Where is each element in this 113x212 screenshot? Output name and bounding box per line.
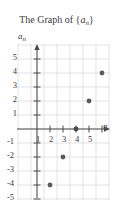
y-tick-label-neg1: -1: [0, 136, 14, 146]
y-tick-label-neg2: -2: [0, 150, 14, 160]
data-point: [74, 127, 79, 132]
y-tick-label-neg3: -3: [0, 164, 14, 174]
y-axis-label: an: [18, 31, 26, 43]
sequence-graph-figure: The Graph of {an} an n 5 4 3 2 1 -1 -2 -…: [0, 0, 113, 212]
chart-title-prefix: The Graph of {: [19, 14, 80, 25]
y-tick-label-2: 2: [3, 94, 17, 104]
plot-area: [17, 44, 110, 200]
data-point: [100, 71, 105, 76]
y-tick-label-neg4: -4: [0, 178, 14, 188]
data-points: [17, 44, 110, 200]
chart-title-suffix: }: [89, 14, 94, 25]
y-tick-label-4: 4: [3, 66, 17, 76]
data-point: [87, 99, 92, 104]
data-point: [48, 183, 53, 188]
y-tick-label-1: 1: [3, 108, 17, 118]
y-tick-label-5: 5: [3, 52, 17, 62]
y-tick-label-neg5: -5: [0, 192, 14, 202]
y-tick-label-3: 3: [3, 80, 17, 90]
y-axis-label-subscript: n: [23, 35, 27, 43]
chart-title: The Graph of {an}: [0, 14, 113, 29]
data-point: [61, 155, 66, 160]
